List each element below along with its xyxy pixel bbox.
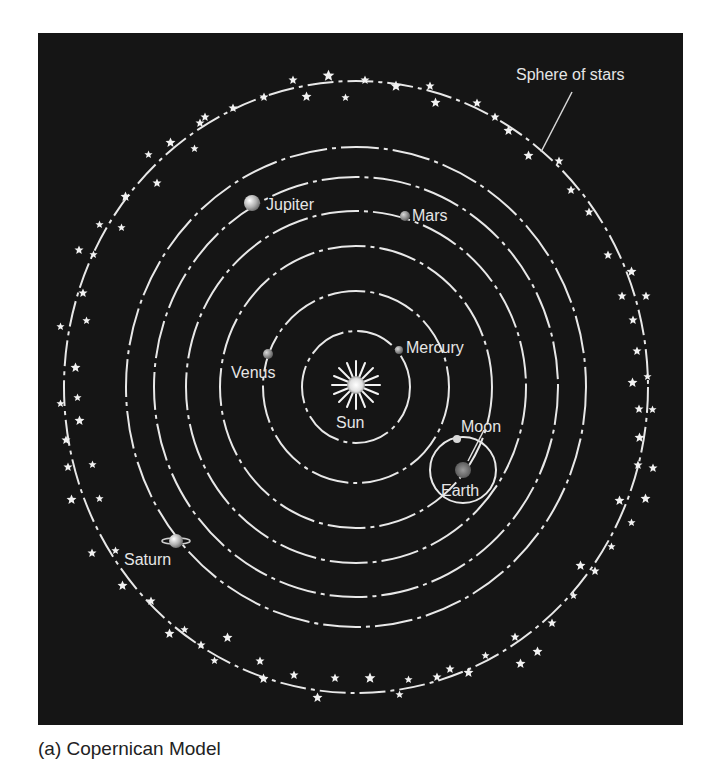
jupiter-icon (244, 195, 260, 211)
moon-label: Moon (461, 418, 501, 435)
figure-caption: (a) Copernican Model (38, 738, 221, 760)
mercury-icon (395, 346, 403, 354)
moon-icon (453, 435, 461, 443)
mars-label: Mars (412, 207, 448, 224)
venus-icon (263, 349, 273, 359)
jupiter-label: Jupiter (266, 196, 315, 213)
mercury-label: Mercury (406, 339, 464, 356)
mars-icon (400, 211, 410, 221)
earth-icon (455, 462, 471, 478)
earth-label: Earth (441, 482, 479, 499)
sun-label: Sun (336, 414, 364, 431)
sun-icon (332, 361, 380, 409)
saturn-label: Saturn (124, 551, 171, 568)
sphere-of-stars-leader-line (541, 92, 572, 152)
venus-label: Venus (231, 364, 275, 381)
sphere-of-stars-label: Sphere of stars (516, 66, 625, 83)
saturn-icon (162, 534, 190, 548)
